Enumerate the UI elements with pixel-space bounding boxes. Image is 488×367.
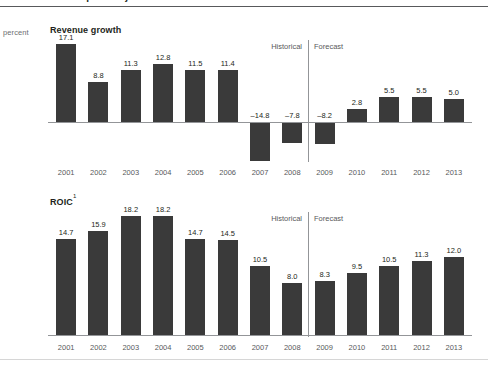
bar — [185, 70, 205, 122]
bar — [379, 266, 399, 335]
category-label: 2008 — [276, 168, 308, 177]
exhibit-kicker: Exhibit 1 — [0, 0, 39, 2]
category-label: 2005 — [179, 168, 211, 177]
bar — [218, 240, 238, 335]
bar — [315, 123, 335, 144]
bar — [347, 109, 367, 122]
bar — [282, 123, 302, 143]
historical-forecast-divider — [308, 40, 309, 162]
segment-label-forecast: Forecast — [314, 214, 343, 223]
bar — [347, 273, 367, 335]
bar-value-label: 8.3 — [308, 270, 340, 279]
category-label: 2012 — [405, 168, 437, 177]
category-label: 2012 — [405, 343, 437, 352]
category-label: 2010 — [341, 343, 373, 352]
bar — [121, 216, 141, 335]
bar-value-label: –7.8 — [276, 111, 308, 120]
bar-value-label: 14.7 — [179, 228, 211, 237]
category-label: 2008 — [276, 343, 308, 352]
panel-title-roic: ROIC1 — [50, 196, 76, 207]
category-label: 2001 — [50, 168, 82, 177]
category-label: 2002 — [82, 343, 114, 352]
category-label: 2009 — [308, 168, 340, 177]
category-label: 2011 — [373, 343, 405, 352]
bar — [444, 99, 464, 122]
bar-value-label: 5.5 — [373, 86, 405, 95]
bar-value-label: 10.5 — [373, 255, 405, 264]
bar-value-label: 14.7 — [50, 228, 82, 237]
category-label: 2002 — [82, 168, 114, 177]
bar — [250, 266, 270, 335]
category-label: 2010 — [341, 168, 373, 177]
historical-forecast-divider — [308, 212, 309, 337]
bar-value-label: 11.4 — [212, 59, 244, 68]
bar — [250, 123, 270, 161]
bar-value-label: 2.8 — [341, 98, 373, 107]
category-label: 2001 — [50, 343, 82, 352]
category-label: 2003 — [115, 343, 147, 352]
category-label: 2006 — [212, 168, 244, 177]
bottom-divider-rule — [0, 359, 488, 360]
bar-value-label: 15.9 — [82, 220, 114, 229]
category-label: 2004 — [147, 343, 179, 352]
exhibit-title: Exhibit 1 Home Depot: Projected revenue … — [0, 0, 488, 3]
segment-label-historical: Historical — [246, 42, 302, 51]
bar-value-label: –8.2 — [308, 111, 340, 120]
bar — [315, 281, 335, 335]
bar — [218, 70, 238, 122]
bar — [282, 283, 302, 335]
bar — [185, 239, 205, 335]
bar — [379, 97, 399, 122]
bar-value-label: 5.5 — [405, 86, 437, 95]
bar — [412, 261, 432, 335]
bar — [153, 216, 173, 335]
bar-value-label: –14.8 — [244, 111, 276, 120]
category-label: 2011 — [373, 168, 405, 177]
bar-value-label: 14.5 — [212, 229, 244, 238]
category-label: 2006 — [212, 343, 244, 352]
exhibit-title-text: Home Depot: Projected revenue and ROIC — [42, 0, 246, 2]
bar — [153, 64, 173, 122]
bar-value-label: 8.0 — [276, 272, 308, 281]
bar-value-label: 12.8 — [147, 53, 179, 62]
bar-value-label: 18.2 — [115, 205, 147, 214]
category-label: 2004 — [147, 168, 179, 177]
bar-value-label: 11.5 — [179, 59, 211, 68]
category-label: 2007 — [244, 343, 276, 352]
bar-value-label: 5.0 — [438, 88, 470, 97]
category-label: 2007 — [244, 168, 276, 177]
title-divider-rule — [0, 6, 488, 7]
bar-value-label: 8.8 — [82, 71, 114, 80]
bar-value-label: 11.3 — [115, 59, 147, 68]
bar — [412, 97, 432, 122]
bar — [56, 239, 76, 335]
category-label: 2005 — [179, 343, 211, 352]
category-label: 2013 — [438, 168, 470, 177]
bar — [88, 82, 108, 122]
bar-value-label: 17.1 — [50, 33, 82, 42]
bar — [56, 44, 76, 122]
category-label: 2009 — [308, 343, 340, 352]
unit-label: percent — [3, 28, 29, 37]
category-label: 2003 — [115, 168, 147, 177]
bar-value-label: 9.5 — [341, 262, 373, 271]
bar — [88, 231, 108, 335]
bar-value-label: 18.2 — [147, 205, 179, 214]
zero-axis-line — [48, 335, 472, 336]
bar — [121, 70, 141, 122]
bar-value-label: 12.0 — [438, 246, 470, 255]
bar-value-label: 10.5 — [244, 255, 276, 264]
bar-value-label: 11.3 — [405, 250, 437, 259]
panel-footnote-marker-1: 1 — [73, 193, 76, 199]
bar — [444, 257, 464, 335]
segment-label-forecast: Forecast — [314, 42, 343, 51]
segment-label-historical: Historical — [246, 214, 302, 223]
category-label: 2013 — [438, 343, 470, 352]
